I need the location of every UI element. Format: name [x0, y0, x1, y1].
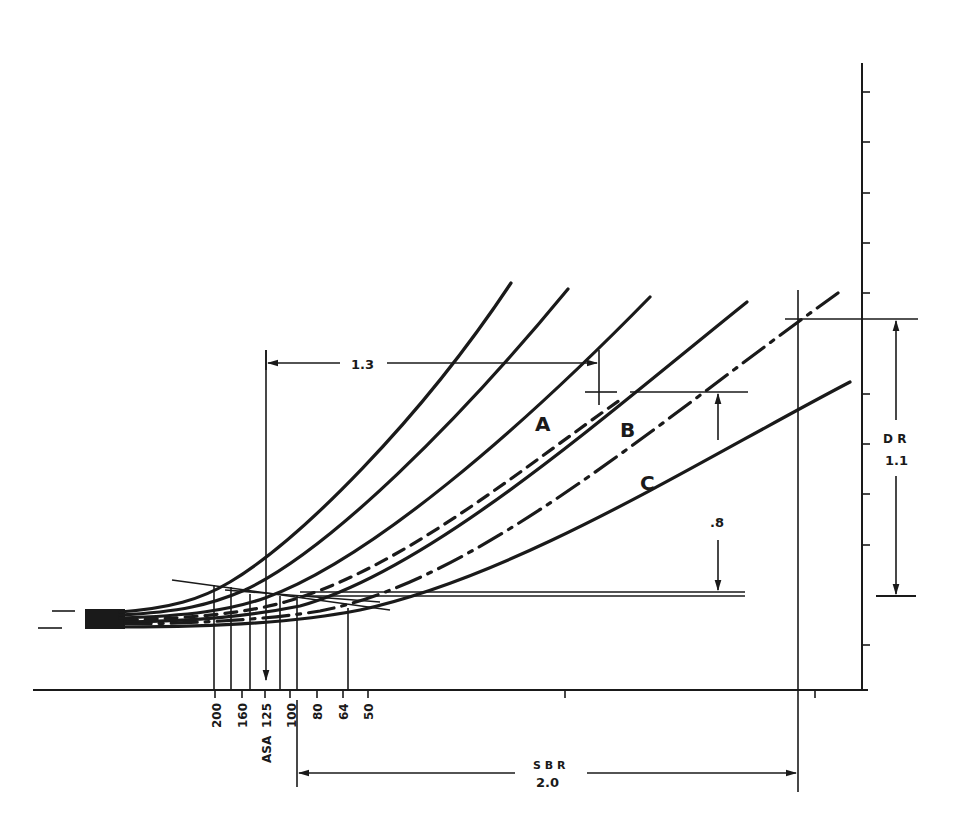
- svg-text:50: 50: [362, 703, 376, 720]
- curve-b-dashdot: [125, 293, 838, 624]
- svg-text:64: 64: [337, 703, 351, 720]
- asa-tick-labels: 200 160 125 100 80 64 50 ASA: [210, 703, 376, 763]
- curve-family: [120, 283, 850, 627]
- sbr-value: 2.0: [536, 775, 559, 790]
- curve-label-c: C: [640, 471, 655, 495]
- svg-text:80: 80: [311, 703, 325, 720]
- base-axis-ticks: [565, 690, 815, 698]
- curve-2: [120, 289, 568, 615]
- svg-text:125: 125: [260, 703, 274, 728]
- dr-label: D R: [883, 432, 906, 446]
- asa-axis-label: ASA: [260, 735, 274, 763]
- curve-label-b: B: [620, 418, 635, 442]
- dim-1-3-label: 1.3: [351, 357, 374, 372]
- curve-label-a: A: [535, 412, 551, 436]
- svg-text:200: 200: [210, 703, 224, 728]
- sbr-label: S B R: [533, 759, 566, 772]
- dr-value: 1.1: [885, 453, 908, 468]
- characteristic-curve-diagram: A B C 200 160 125 100 80 64 50 ASA: [0, 0, 964, 837]
- curve-4: [125, 302, 747, 622]
- dim-0-8-label: .8: [710, 515, 724, 530]
- svg-text:160: 160: [236, 703, 250, 728]
- asa-ticks: [215, 690, 368, 698]
- density-axis-ticks: [862, 92, 870, 645]
